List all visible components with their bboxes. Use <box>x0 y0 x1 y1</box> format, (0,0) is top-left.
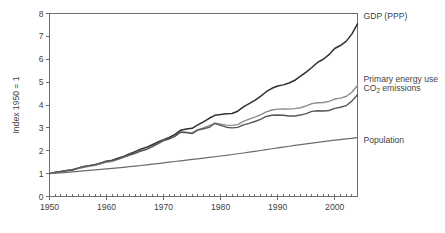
series-label-co2-emissions: CO2 emissions <box>364 83 421 94</box>
y-tick-label: 8 <box>39 9 44 19</box>
series-line-population <box>50 138 358 174</box>
y-tick-label: 0 <box>39 192 44 202</box>
series-line-co2-emissions <box>50 95 358 174</box>
y-axis-ticks: 012345678 <box>39 9 50 202</box>
series-line-primary-energy-use <box>50 86 358 174</box>
y-tick-label: 4 <box>39 100 44 110</box>
series-label-gdp-ppp: GDP (PPP) <box>364 11 408 21</box>
svg-text:CO2 emissions: CO2 emissions <box>364 83 421 94</box>
y-axis-title: Index 1950 = 1 <box>11 76 21 133</box>
y-tick-label: 7 <box>39 31 44 41</box>
chart-container: Index 1950 = 1 012345678 195019601970198… <box>0 0 445 233</box>
line-chart: Index 1950 = 1 012345678 195019601970198… <box>0 0 445 233</box>
svg-text:Population: Population <box>364 135 405 145</box>
series-inline-labels: GDP (PPP)Primary energy useCO2 emissions… <box>364 11 439 145</box>
x-tick-label: 1960 <box>97 202 116 212</box>
x-tick-label: 1970 <box>154 202 173 212</box>
series-lines <box>50 24 358 174</box>
y-tick-label: 3 <box>39 123 44 133</box>
y-tick-label: 6 <box>39 54 44 64</box>
x-axis-major-ticks: 195019601970198019902000 <box>40 197 345 213</box>
series-label-population: Population <box>364 135 405 145</box>
y-tick-label: 5 <box>39 77 44 87</box>
y-axis-title-label: Index 1950 = 1 <box>11 76 21 133</box>
svg-text:GDP (PPP): GDP (PPP) <box>364 11 408 21</box>
x-tick-label: 1950 <box>40 202 59 212</box>
x-tick-label: 1980 <box>211 202 230 212</box>
x-tick-label: 2000 <box>325 202 344 212</box>
x-tick-label: 1990 <box>268 202 287 212</box>
series-line-gdp-ppp <box>50 24 358 174</box>
y-tick-label: 2 <box>39 146 44 156</box>
axis-lines <box>50 14 358 197</box>
y-tick-label: 1 <box>39 169 44 179</box>
